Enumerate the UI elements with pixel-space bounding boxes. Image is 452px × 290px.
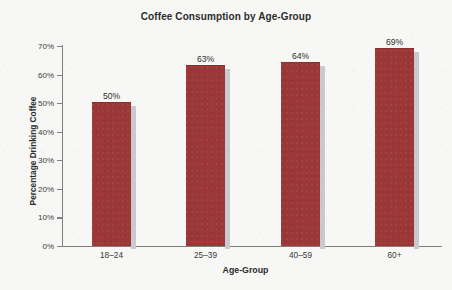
bar-value-label-40-59: 64% [271,51,331,61]
y-tick-label-30: 30% [0,156,54,165]
y-tick-label-10: 10% [0,213,54,222]
bar-shadow [225,69,230,249]
x-tick-label-40-59: 40–59 [261,250,341,260]
y-tick-mark [57,75,62,76]
bar-group-25-39 [186,46,225,246]
chart-title: Coffee Consumption by Age-Group [0,11,452,22]
x-tick-label-25-39: 25–39 [166,250,246,260]
x-axis-title: Age-Group [63,265,428,275]
bar-group-60-plus [375,46,414,246]
bar-shadow [320,66,325,249]
bar-shadow [414,52,419,249]
y-tick-mark [57,103,62,104]
bar-shadow [131,106,136,249]
bar-group-18-24 [92,46,131,246]
bar-group-40-59 [281,46,320,246]
bar-40-59[interactable] [281,62,320,246]
y-tick-label-40: 40% [0,127,54,136]
y-tick-mark [57,132,62,133]
y-axis-line [62,45,63,247]
y-tick-mark [57,160,62,161]
bar-60-plus[interactable] [375,48,414,246]
bar-25-39[interactable] [186,65,225,246]
bar-value-label-60-plus: 69% [365,37,425,47]
y-tick-mark [57,46,62,47]
y-tick-mark [57,217,62,218]
bar-value-label-18-24: 50% [82,91,142,101]
bar-chart-figure: Coffee Consumption by Age-Group Percenta… [0,0,452,290]
y-tick-label-70: 70% [0,42,54,51]
bar-value-label-25-39: 63% [176,54,236,64]
y-tick-label-60: 60% [0,70,54,79]
x-tick-label-60-plus: 60+ [355,250,435,260]
x-tick-label-18-24: 18–24 [72,250,152,260]
y-tick-label-20: 20% [0,184,54,193]
y-tick-label-0: 0% [0,242,54,251]
bar-18-24[interactable] [92,102,131,246]
y-tick-label-50: 50% [0,99,54,108]
y-tick-mark [57,189,62,190]
y-tick-mark [57,246,62,247]
